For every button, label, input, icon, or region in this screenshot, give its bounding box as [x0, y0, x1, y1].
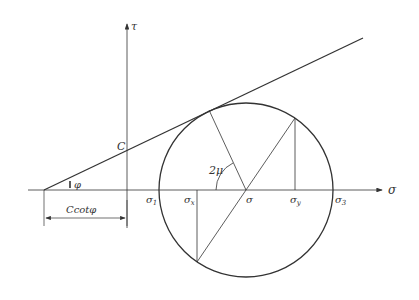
sigma-axis-label: σ — [388, 183, 397, 197]
sigma1-label: σ1 — [146, 194, 157, 207]
sigma-center-label: σ — [246, 194, 254, 205]
cohesion-label: C — [117, 140, 126, 153]
sigma3-label: σ3 — [335, 194, 347, 207]
radius-to-tangent-point — [209, 110, 246, 190]
sigma-y-label: σy — [290, 194, 302, 207]
phi-label: φ — [74, 179, 81, 190]
ccotphi-label: Ccotφ — [66, 204, 96, 215]
sigma-x-label: σx — [184, 194, 195, 207]
tau-axis-label: τ — [131, 20, 138, 33]
two-mu-label: 2μ — [208, 164, 223, 177]
mohr-circle-diagram: σ τ C φ Ccotφ 2μ σ1 σx σ σy σ3 — [0, 0, 419, 300]
